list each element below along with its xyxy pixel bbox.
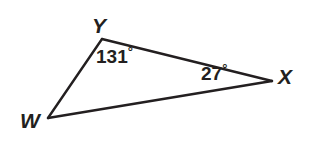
angle-measure-at-X: 27°	[201, 62, 227, 83]
side-WY	[48, 39, 102, 118]
triangle-figure: Y W X 131° 27°	[0, 0, 316, 146]
angle-measure-at-X-value: 27	[201, 63, 222, 84]
vertex-label-W: W	[20, 110, 40, 131]
triangle-outline	[48, 39, 272, 118]
angle-measure-at-Y: 131°	[96, 45, 133, 66]
triangle-diagram-svg	[0, 0, 316, 146]
angle-measure-at-Y-value: 131	[96, 46, 128, 67]
side-WX	[48, 81, 272, 118]
degree-symbol-icon: °	[222, 61, 227, 76]
vertex-label-Y: Y	[92, 15, 106, 36]
degree-symbol-icon: °	[128, 44, 133, 59]
vertex-label-X: X	[278, 66, 292, 87]
